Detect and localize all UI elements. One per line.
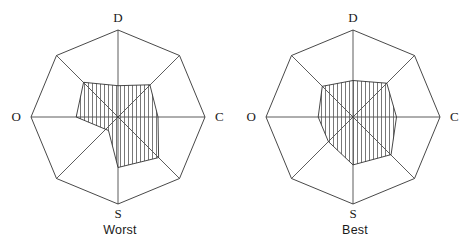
axis-label-o: O <box>247 109 256 124</box>
axis-label-d: D <box>348 10 357 25</box>
panel-caption-best: Best <box>237 223 473 238</box>
axis-label-s: S <box>349 206 356 221</box>
axis-label-s: S <box>114 206 121 221</box>
axis-label-c: C <box>215 109 224 124</box>
radar-chart-best: D C S O <box>237 0 473 242</box>
series-polygon-best <box>318 81 396 165</box>
radar-panel-worst: D C S O Worst <box>0 0 240 242</box>
axis-label-o: O <box>12 109 21 124</box>
radar-figure: D C S O Worst <box>0 0 473 242</box>
radar-chart-worst: D C S O <box>0 0 240 242</box>
radar-panel-best: D C S O Best <box>237 0 473 242</box>
axis-label-d: D <box>113 10 122 25</box>
panel-caption-worst: Worst <box>0 223 240 238</box>
series-polygon-worst <box>76 82 158 167</box>
axis-label-c: C <box>450 109 459 124</box>
